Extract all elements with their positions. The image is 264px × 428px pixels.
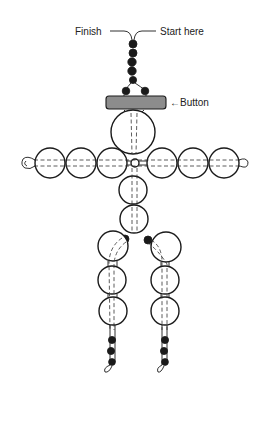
right-foot-black-beads xyxy=(160,336,168,365)
head-bead xyxy=(111,110,155,154)
start-here-label: Start here xyxy=(160,26,204,37)
top-black-beads xyxy=(128,40,137,84)
hip-black-bead-right xyxy=(144,236,152,244)
right-leg-beads xyxy=(151,232,181,325)
right-end-loop xyxy=(239,159,248,167)
button-piece xyxy=(106,96,166,109)
left-leg-beads xyxy=(98,231,128,325)
finish-thread xyxy=(110,31,132,40)
finish-label: Finish xyxy=(75,26,102,37)
left-end-loop xyxy=(22,157,35,168)
button-label: ←Button xyxy=(170,97,209,108)
body-bead-2 xyxy=(120,205,148,233)
start-thread xyxy=(134,31,156,40)
left-foot-black-beads xyxy=(107,336,115,365)
neck-black-beads xyxy=(122,87,149,95)
bead-figure-diagram: Finish Start here ←Button xyxy=(0,0,264,428)
body-bead-1 xyxy=(119,176,147,204)
